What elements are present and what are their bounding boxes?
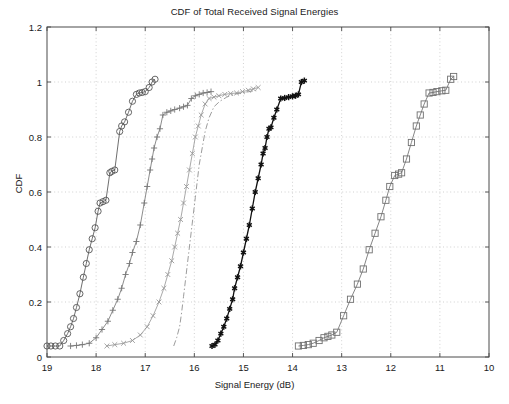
axes-frame [47,27,489,357]
chart-title: CDF of Total Received Signal Energies [0,6,509,17]
data-series-2 [67,89,214,350]
y-tick-label: 0.8 [29,132,42,143]
x-tick-label: 15 [238,362,249,373]
series-line [174,90,257,346]
data-series-6 [295,73,456,349]
y-tick-label: 0.6 [29,187,42,198]
y-tick-label: 1 [37,77,42,88]
figure-container: CDF of Total Received Signal Energies CD… [0,0,509,404]
x-axis-label: Signal Energy (dB) [0,379,509,390]
series-markers [295,73,456,349]
y-tick-label: 0.2 [29,297,42,308]
x-tick-label: 11 [435,362,445,373]
data-series-1 [44,76,158,349]
x-tick-label: 16 [189,362,200,373]
x-tick-label: 17 [140,362,151,373]
x-tick-label: 12 [385,362,396,373]
x-tick-label: 14 [287,362,298,373]
series-line [212,81,304,346]
plot-area [0,0,509,404]
data-series-3 [104,85,260,348]
data-series-4 [174,90,257,346]
series-line [71,92,211,346]
series-markers [44,76,158,349]
y-axis-label: CDF [13,154,24,214]
series-markers [104,85,260,348]
x-tick-label: 10 [484,362,495,373]
series-markers [67,89,214,350]
x-tick-label: 19 [42,362,53,373]
series-line [298,77,453,347]
y-tick-label: 0.4 [29,242,42,253]
y-tick-label: 1.2 [29,22,42,33]
y-tick-label: 0 [37,352,42,363]
x-tick-label: 18 [91,362,102,373]
x-tick-label: 13 [336,362,347,373]
